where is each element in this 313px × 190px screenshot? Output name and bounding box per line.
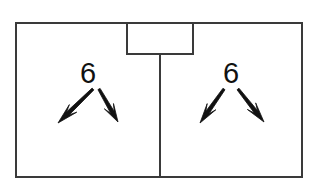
right-bay-arrow-down-right <box>237 88 264 122</box>
arrow-down-right-shape <box>237 88 264 122</box>
diagram-canvas: 6 6 <box>0 0 313 190</box>
arrow-down-left-shape <box>58 88 94 123</box>
arrow-down-right-shape <box>98 88 118 122</box>
left-bay-arrow-down-left <box>58 88 94 123</box>
right-bay-group: 6 <box>200 57 264 123</box>
right-bay-arrow-down-left <box>200 88 225 123</box>
floor-plan-diagram: 6 6 <box>0 0 313 190</box>
left-bay-label: 6 <box>80 57 96 89</box>
arrow-down-left-shape <box>200 88 225 123</box>
left-bay-group: 6 <box>58 57 118 123</box>
top-center-notch-path <box>127 23 193 54</box>
right-bay-label: 6 <box>223 57 239 89</box>
left-bay-arrow-down-right <box>98 88 118 122</box>
